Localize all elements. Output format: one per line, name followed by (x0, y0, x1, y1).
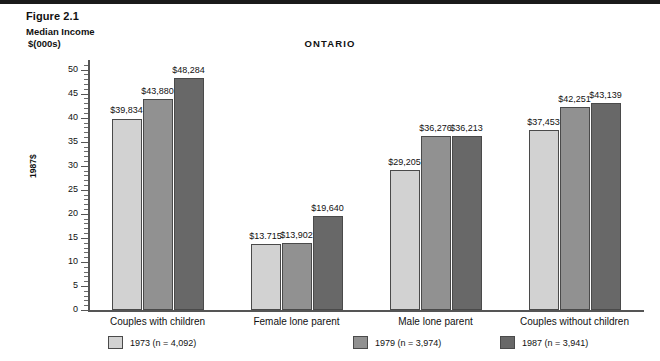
y-tick-minor (84, 171, 88, 172)
y-tick-major (81, 310, 88, 311)
y-tick-minor (84, 156, 88, 157)
top-rule (0, 0, 660, 4)
y-tick-minor (84, 281, 88, 282)
y-tick-minor (84, 219, 88, 220)
y-tick-minor (84, 248, 88, 249)
y-tick-major (81, 238, 88, 239)
y-tick-minor (84, 185, 88, 186)
y-tick-minor (84, 291, 88, 292)
y-tick-label: 0 (56, 304, 78, 314)
median-income-caption: Median Income (26, 26, 95, 37)
bar-group: $37,453$42,251$43,139 (529, 60, 621, 310)
y-tick-label: 45 (56, 88, 78, 98)
y-tick-minor (84, 276, 88, 277)
legend-label: 1979 (n = 3,974) (375, 338, 441, 348)
bar (282, 243, 312, 310)
bar (390, 170, 420, 310)
y-tick-major (81, 214, 88, 215)
x-axis-line (88, 310, 644, 312)
bar-group: $39,834$43,880$48,284 (112, 60, 204, 310)
bar-value-label: $43,880 (137, 86, 179, 96)
y-tick-minor (84, 180, 88, 181)
y-tick-minor (84, 137, 88, 138)
y-tick-minor (84, 199, 88, 200)
y-tick-major (81, 70, 88, 71)
bar (591, 103, 621, 310)
y-tick-minor (84, 103, 88, 104)
legend-swatch (108, 336, 123, 349)
bar-value-label: $48,284 (168, 65, 210, 75)
bar (313, 216, 343, 310)
chart-title: ONTARIO (0, 38, 660, 49)
y-tick-minor (84, 223, 88, 224)
y-tick-minor (84, 113, 88, 114)
y-tick-major (81, 190, 88, 191)
y-tick-minor (84, 151, 88, 152)
y-tick-minor (84, 89, 88, 90)
category-label: Male lone parent (366, 316, 505, 327)
y-tick-label: 40 (56, 112, 78, 122)
category-label: Female lone parent (227, 316, 366, 327)
bar-value-label: $36,213 (446, 123, 488, 133)
y-tick-major (81, 142, 88, 143)
y-tick-minor (84, 300, 88, 301)
y-tick-major (81, 166, 88, 167)
y-tick-minor (84, 98, 88, 99)
y-tick-minor (84, 161, 88, 162)
legend-item: 1973 (n = 4,092) (108, 336, 196, 349)
bar (421, 136, 451, 310)
y-tick-minor (84, 108, 88, 109)
bar-value-label: $39,834 (106, 105, 148, 115)
figure-number: Figure 2.1 (26, 10, 79, 22)
bar (251, 244, 281, 310)
y-tick-minor (84, 147, 88, 148)
y-tick-minor (84, 305, 88, 306)
y-tick-minor (84, 175, 88, 176)
bar (560, 107, 590, 310)
legend-item: 1987 (n = 3,941) (500, 336, 588, 349)
y-tick-minor (84, 132, 88, 133)
bar (112, 119, 142, 311)
y-tick-minor (84, 79, 88, 80)
y-axis-line (88, 60, 90, 310)
y-tick-minor (84, 84, 88, 85)
y-tick-label: 10 (56, 256, 78, 266)
category-label: Couples without children (505, 316, 644, 327)
y-tick-minor (84, 267, 88, 268)
bar (452, 136, 482, 310)
y-tick-label: 25 (56, 184, 78, 194)
y-tick-major (81, 286, 88, 287)
bar-group: $29,205$36,276$36,213 (390, 60, 482, 310)
bar-group: $13.715$13,902$19,640 (251, 60, 343, 310)
y-tick-minor (84, 243, 88, 244)
y-tick-minor (84, 65, 88, 66)
y-tick-major (81, 118, 88, 119)
y-tick-minor (84, 257, 88, 258)
y-tick-label: 15 (56, 232, 78, 242)
y-tick-label: 30 (56, 160, 78, 170)
bar-value-label: $29,205 (384, 157, 426, 167)
bar (529, 130, 559, 310)
bar-value-label: $43,139 (585, 90, 627, 100)
y-tick-label: 50 (56, 64, 78, 74)
legend: 1973 (n = 4,092)1979 (n = 3,974)1987 (n … (0, 336, 660, 358)
y-tick-major (81, 262, 88, 263)
bar-value-label: $13,902 (276, 230, 318, 240)
y-tick-minor (84, 204, 88, 205)
bar-value-label: $37,453 (523, 117, 565, 127)
y-tick-minor (84, 74, 88, 75)
legend-label: 1987 (n = 3,941) (522, 338, 588, 348)
plot-area: 05101520253035404550 $39,834$43,880$48,2… (88, 60, 644, 310)
y-tick-major (81, 94, 88, 95)
y-tick-minor (84, 252, 88, 253)
y-tick-minor (84, 296, 88, 297)
y-tick-minor (84, 123, 88, 124)
y-tick-minor (84, 228, 88, 229)
bar (143, 99, 173, 310)
y-tick-label: 20 (56, 208, 78, 218)
y-axis-title: 1987$ (28, 154, 38, 178)
legend-swatch (500, 336, 515, 349)
y-tick-minor (84, 127, 88, 128)
y-tick-minor (84, 272, 88, 273)
category-label: Couples with children (88, 316, 227, 327)
